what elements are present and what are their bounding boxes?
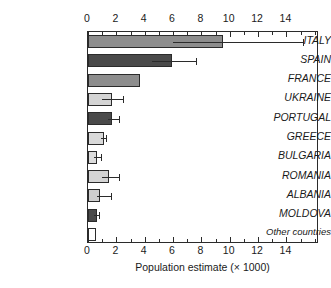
bottom-tick-label: 12: [251, 245, 263, 256]
bar-france: [88, 74, 140, 87]
error-bar-albania: [97, 196, 111, 197]
bottom-tick-mark: [173, 237, 174, 242]
bottom-tick-mark: [216, 239, 217, 242]
error-bar-cap: [119, 174, 120, 181]
error-bar-bulgaria: [94, 157, 102, 158]
category-label-romania: ROMANIA: [247, 170, 331, 181]
error-bar-portugal: [108, 119, 119, 120]
bottom-tick-mark: [145, 237, 146, 242]
bottom-tick-label: 2: [112, 245, 118, 256]
x-axis-title: Population estimate (× 1000): [87, 261, 318, 273]
top-tick-label: 6: [169, 13, 175, 24]
bottom-tick-mark: [315, 239, 316, 242]
error-bar-cap: [119, 116, 120, 123]
error-bar-romania: [102, 177, 119, 178]
top-tick-label: 2: [112, 13, 118, 24]
top-tick-label: 0: [84, 13, 90, 24]
category-label-bulgaria: BULGARIA: [247, 150, 331, 161]
error-bar-cap: [123, 96, 124, 103]
category-label-moldova: MOLDOVA: [247, 208, 331, 219]
error-bar-ukraine: [102, 99, 123, 100]
top-tick-label: 14: [280, 13, 292, 24]
bottom-tick-label: 4: [141, 245, 147, 256]
bottom-tick-label: 14: [280, 245, 292, 256]
bottom-tick-mark: [301, 239, 302, 242]
error-bar-cap: [196, 58, 197, 65]
bottom-tick-mark: [102, 239, 103, 242]
bottom-tick-mark: [159, 239, 160, 242]
population-estimate-bar-chart: 02468101214 ITALYSPAINFRANCEUKRAINEPORTU…: [0, 0, 331, 288]
bottom-tick-mark: [286, 237, 287, 242]
top-tick-mark: [244, 32, 245, 35]
bar-other-countries: [88, 228, 96, 241]
top-tick-mark: [230, 32, 231, 37]
error-bar-cap: [99, 212, 100, 219]
bottom-tick-mark: [244, 239, 245, 242]
bottom-tick-label: 8: [197, 245, 203, 256]
category-label-spain: SPAIN: [247, 54, 331, 65]
bottom-tick-label: 10: [223, 245, 235, 256]
bottom-tick-mark: [258, 237, 259, 242]
bottom-tick-mark: [201, 237, 202, 242]
bottom-tick-label: 0: [84, 245, 90, 256]
bottom-tick-mark: [116, 237, 117, 242]
error-bar-cap: [101, 154, 102, 161]
error-bar-spain: [152, 61, 196, 62]
category-label-portugal: PORTUGAL: [247, 112, 331, 123]
error-bar-cap: [111, 193, 112, 200]
category-label-ukraine: UKRAINE: [247, 92, 331, 103]
top-tick-label: 4: [141, 13, 147, 24]
bottom-tick-label: 6: [169, 245, 175, 256]
category-label-france: FRANCE: [247, 73, 331, 84]
category-label-other-countries: Other countries: [247, 227, 331, 237]
bottom-tick-mark: [230, 237, 231, 242]
category-label-greece: GREECE: [247, 131, 331, 142]
category-label-albania: ALBANIA: [247, 189, 331, 200]
bottom-tick-mark: [131, 239, 132, 242]
top-tick-label: 8: [197, 13, 203, 24]
bottom-tick-mark: [187, 239, 188, 242]
top-tick-label: 12: [251, 13, 263, 24]
error-bar-cap: [106, 135, 107, 142]
top-tick-label: 10: [223, 13, 235, 24]
category-label-italy: ITALY: [247, 35, 331, 46]
bottom-tick-mark: [272, 239, 273, 242]
